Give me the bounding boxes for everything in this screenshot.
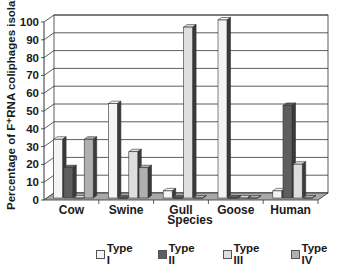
legend-label: Type III [234, 242, 271, 266]
bar [163, 188, 176, 198]
legend-item-type-3: Type III [223, 242, 271, 266]
bar [84, 137, 97, 198]
y-tick-label: 100 [20, 16, 39, 28]
legend-swatch [291, 250, 300, 259]
legend-item-type-2: Type II [158, 242, 203, 266]
y-tick-label: 90 [26, 34, 39, 46]
y-axis-label: Percentage of F⁺RNA coliphages isolated [4, 10, 18, 210]
y-tick-label: 40 [26, 123, 39, 135]
y-tick-label: 10 [26, 176, 39, 188]
bar [108, 101, 121, 198]
legend-label: Type II [169, 242, 203, 266]
bar [184, 25, 197, 198]
chart-legend: Type I Type II Type III Type IV [96, 242, 340, 266]
y-tick-label: 20 [26, 158, 39, 170]
legend-swatch [96, 250, 105, 259]
bar [293, 162, 306, 198]
y-tick-label: 80 [26, 52, 39, 64]
y-tick-label: 70 [26, 69, 39, 81]
bar [64, 165, 77, 198]
y-tick-label: 30 [26, 141, 39, 153]
legend-swatch [223, 250, 232, 259]
bar [218, 18, 231, 199]
legend-label: Type I [107, 242, 138, 266]
bar [139, 165, 152, 198]
x-tick-label: Swine [109, 203, 144, 217]
x-tick-label: Cow [59, 203, 85, 217]
legend-label: Type IV [302, 242, 340, 266]
x-tick-label: Goose [217, 203, 255, 217]
y-tick-label: 50 [26, 105, 39, 117]
x-axis-label: Species [160, 213, 220, 227]
x-tick-label: Human [270, 203, 311, 217]
y-tick-label: 0 [33, 194, 39, 206]
legend-item-type-1: Type I [96, 242, 138, 266]
legend-item-type-4: Type IV [291, 242, 340, 266]
legend-swatch [158, 250, 167, 259]
y-tick-label: 60 [26, 87, 39, 99]
